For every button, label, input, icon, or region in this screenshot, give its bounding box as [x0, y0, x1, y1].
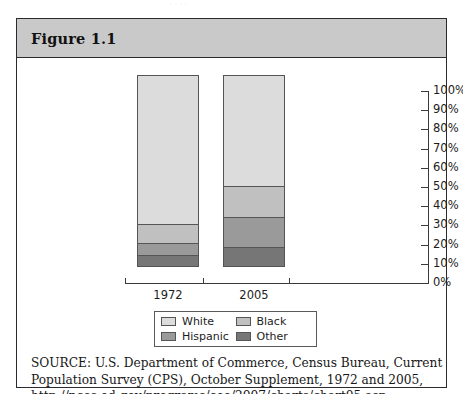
x-axis-line: [125, 283, 321, 284]
y-tick-label: 0%: [433, 275, 451, 289]
figure-box: Figure 1.1 1972 2005 100%90%80%70%60%50%…: [16, 18, 447, 388]
figure-title: Figure 1.1: [31, 30, 117, 47]
legend-item-hispanic[interactable]: Hispanic: [161, 330, 236, 343]
bar-segment-hispanic-1972[interactable]: [138, 243, 198, 254]
plot-region: 1972 2005 100%90%80%70%60%50%40%30%20%10…: [125, 75, 320, 267]
legend-item-other[interactable]: Other: [236, 330, 311, 343]
y-tick-label: 10%: [433, 256, 459, 270]
y-axis-tick-40: 40%: [421, 206, 429, 207]
y-tick-mark: [421, 187, 429, 188]
bar-segment-other-1972[interactable]: [138, 255, 198, 266]
legend-label-white: White: [182, 315, 214, 328]
y-tick-label: 50%: [433, 179, 459, 193]
y-tick-label: 30%: [433, 217, 459, 231]
source-note: SOURCE: U.S. Department of Commerce, Cen…: [31, 355, 435, 394]
y-tick-label: 100%: [433, 83, 463, 97]
y-tick-mark: [421, 206, 429, 207]
legend-swatch-black: [236, 317, 251, 326]
legend-swatch-hispanic: [161, 332, 176, 341]
x-axis-tick: [203, 278, 204, 284]
legend-item-white[interactable]: White: [161, 315, 236, 328]
y-axis-tick-60: 60%: [421, 168, 429, 169]
y-tick-label: 70%: [433, 141, 459, 155]
x-axis-tick: [125, 278, 126, 284]
bar-segment-black-1972[interactable]: [138, 224, 198, 243]
y-axis-tick-50: 50%: [421, 187, 429, 188]
y-tick-mark: [421, 129, 429, 130]
y-tick-mark: [421, 110, 429, 111]
y-tick-mark: [421, 283, 429, 284]
source-line-2: Population Survey (CPS), October Supplem…: [31, 372, 435, 389]
x-axis-tick: [289, 278, 290, 284]
y-axis-tick-0: 0%: [421, 283, 429, 284]
stacked-bar-1972[interactable]: [137, 75, 199, 267]
bar-segment-other-2005[interactable]: [224, 247, 284, 266]
y-axis-tick-70: 70%: [421, 149, 429, 150]
y-tick-label: 90%: [433, 102, 459, 116]
y-tick-mark: [421, 149, 429, 150]
legend-item-black[interactable]: Black: [236, 315, 311, 328]
running-head-fragment: · · · ·: [170, 0, 450, 7]
y-tick-mark: [421, 245, 429, 246]
bar-segment-hispanic-2005[interactable]: [224, 217, 284, 247]
source-line-3[interactable]: http://nces.ed.gov/programs/coe/2007/cha…: [31, 388, 435, 394]
bar-segment-white-1972[interactable]: [138, 76, 198, 224]
chart-area: 1972 2005 100%90%80%70%60%50%40%30%20%10…: [17, 59, 446, 297]
bar-segment-white-2005[interactable]: [224, 76, 284, 186]
y-tick-mark: [421, 264, 429, 265]
y-tick-mark: [421, 225, 429, 226]
y-axis-tick-90: 90%: [421, 110, 429, 111]
legend-label-other: Other: [257, 330, 288, 343]
figure-header-band: Figure 1.1: [17, 19, 446, 58]
legend-swatch-white: [161, 317, 176, 326]
x-axis-extension: [321, 283, 429, 284]
chart-legend: White Black Hispanic Other: [154, 311, 317, 347]
y-axis-tick-100: 100%: [421, 91, 429, 92]
y-tick-mark: [421, 91, 429, 92]
y-tick-mark: [421, 168, 429, 169]
stacked-bar-2005[interactable]: [223, 75, 285, 267]
legend-label-hispanic: Hispanic: [182, 330, 229, 343]
y-axis-tick-10: 10%: [421, 264, 429, 265]
y-tick-label: 20%: [433, 237, 459, 251]
y-tick-label: 60%: [433, 160, 459, 174]
y-axis-tick-80: 80%: [421, 129, 429, 130]
legend-label-black: Black: [257, 315, 287, 328]
page-root: · · · · Figure 1.1 1972 2005 100%90: [0, 0, 463, 394]
y-axis-tick-20: 20%: [421, 245, 429, 246]
bar-segment-black-2005[interactable]: [224, 186, 284, 216]
source-line-1: SOURCE: U.S. Department of Commerce, Cen…: [31, 355, 435, 372]
x-axis-label-2005: 2005: [223, 288, 285, 302]
y-axis-tick-30: 30%: [421, 225, 429, 226]
legend-swatch-other: [236, 332, 251, 341]
y-tick-label: 40%: [433, 198, 459, 212]
y-tick-label: 80%: [433, 121, 459, 135]
x-axis-label-1972: 1972: [137, 288, 199, 302]
